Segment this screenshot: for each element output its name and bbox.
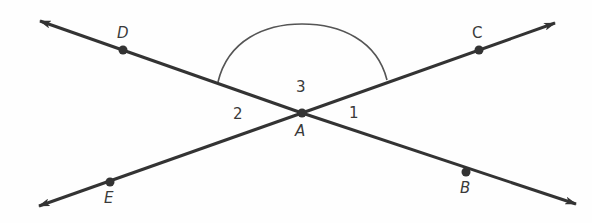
line-DB [40, 21, 302, 113]
point-A-dot [298, 109, 307, 118]
angle-label-3: 3 [296, 80, 306, 95]
point-label-D: D [117, 26, 129, 41]
line-EC [39, 113, 302, 206]
point-C-dot [475, 46, 484, 55]
line-EC-extension [302, 23, 555, 113]
diagram-svg [0, 0, 592, 223]
angle-label-2: 2 [233, 107, 243, 122]
point-B-dot [462, 168, 471, 177]
point-label-A: A [295, 124, 305, 139]
point-label-E: E [104, 191, 113, 206]
point-D-dot [119, 46, 128, 55]
point-E-dot [106, 178, 115, 187]
angle-3-arc [218, 24, 387, 82]
point-label-C: C [472, 26, 482, 41]
angle-label-1: 1 [349, 106, 359, 121]
diagram-canvas: D C A E B 3 2 1 [0, 0, 592, 223]
line-DB-extension [302, 113, 576, 204]
point-label-B: B [460, 181, 470, 196]
